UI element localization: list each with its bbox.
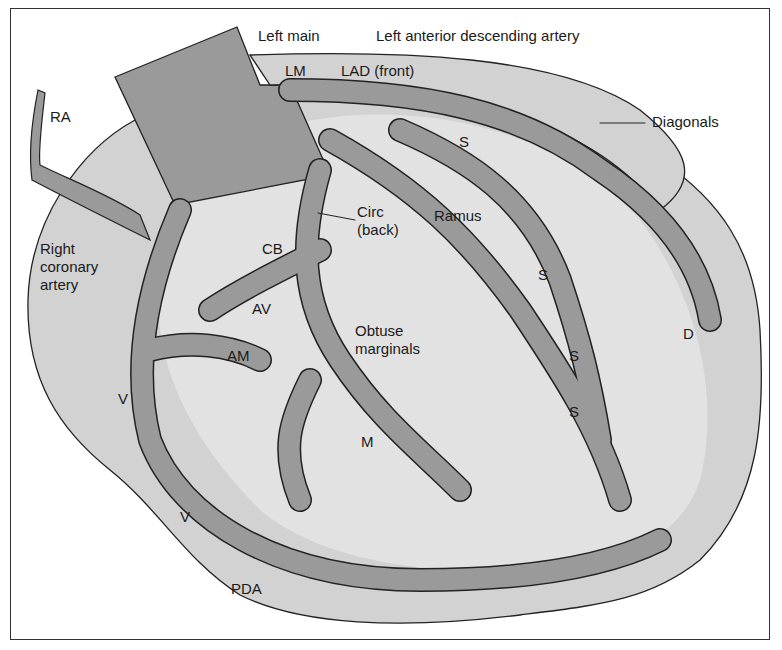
label-v-1: V	[118, 390, 128, 408]
label-s-4: S	[569, 403, 579, 421]
label-left-main: Left main	[258, 27, 320, 45]
label-right-coronary-artery: Right coronary artery	[40, 240, 98, 294]
label-pda: PDA	[231, 580, 262, 598]
label-lad-front: LAD (front)	[341, 62, 414, 80]
label-lad-full: Left anterior descending artery	[376, 27, 579, 45]
label-am: AM	[227, 347, 250, 365]
label-av: AV	[252, 300, 271, 318]
label-ramus: Ramus	[434, 207, 482, 225]
label-d: D	[683, 325, 694, 343]
label-cb: CB	[262, 240, 283, 258]
label-s-3: S	[569, 347, 579, 365]
label-m: M	[361, 433, 374, 451]
label-ra: RA	[50, 108, 71, 126]
label-lm: LM	[285, 62, 306, 80]
label-diagonals: Diagonals	[652, 113, 719, 131]
label-s-1: S	[459, 133, 469, 151]
label-s-2: S	[538, 266, 548, 284]
label-circ: Circ (back)	[357, 203, 399, 239]
label-v-2: V	[180, 508, 190, 526]
label-obtuse-marginals: Obtuse marginals	[355, 322, 420, 358]
